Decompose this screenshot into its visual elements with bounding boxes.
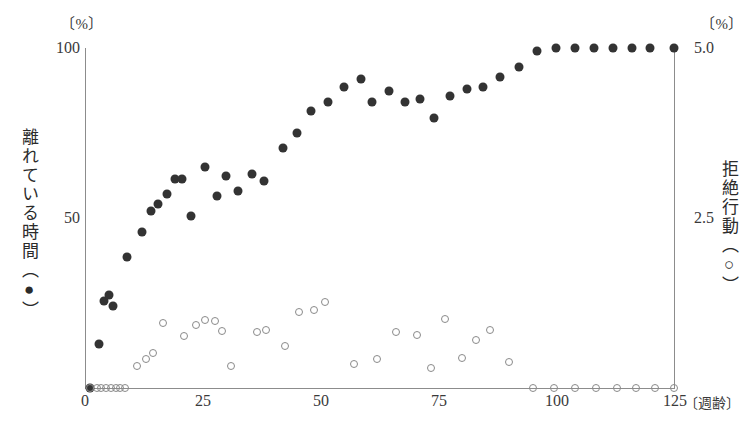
data-point (104, 290, 113, 299)
data-point (529, 384, 537, 392)
data-point (218, 327, 226, 335)
right-axis-line (674, 48, 675, 389)
data-point (123, 253, 132, 262)
data-point (441, 315, 449, 323)
data-point (260, 176, 269, 185)
data-point (234, 186, 243, 195)
data-point (278, 144, 287, 153)
data-point (571, 384, 579, 392)
data-point (154, 200, 163, 209)
x-axis-tick-50: 50 (291, 392, 351, 410)
data-point (187, 212, 196, 221)
data-point (163, 190, 172, 199)
data-point (293, 129, 302, 138)
data-point (310, 306, 318, 314)
left-axis-line (85, 48, 86, 389)
data-point (212, 191, 221, 200)
data-point (486, 326, 494, 334)
right-axis-title: 拒絶行動（○） (718, 160, 739, 295)
data-point (479, 83, 488, 92)
data-point (146, 207, 155, 216)
data-point (401, 98, 410, 107)
data-point (137, 227, 146, 236)
data-point (109, 302, 118, 311)
data-point (142, 355, 150, 363)
data-point (446, 91, 455, 100)
data-point (651, 384, 659, 392)
data-point (227, 362, 235, 370)
data-point (177, 174, 186, 183)
left-axis-unit-label: 〔%〕 (60, 12, 104, 33)
data-point (632, 384, 640, 392)
data-point (384, 86, 393, 95)
data-point (514, 62, 523, 71)
data-point (613, 384, 621, 392)
left-axis-tick-100: 100 (38, 39, 80, 57)
data-point (505, 358, 513, 366)
figure-caption-cropped (10, 420, 740, 431)
data-point (627, 44, 636, 53)
data-point (533, 47, 542, 56)
right-axis-unit-label: 〔%〕 (700, 12, 744, 33)
data-point (495, 72, 504, 81)
data-point (211, 317, 219, 325)
data-point (413, 331, 421, 339)
x-axis-tick-25: 25 (173, 392, 233, 410)
data-point (373, 355, 381, 363)
data-point (323, 98, 332, 107)
data-point (592, 384, 600, 392)
data-point (307, 106, 316, 115)
data-point (589, 44, 598, 53)
data-point (472, 336, 480, 344)
data-point (550, 384, 558, 392)
x-axis-tick-75: 75 (409, 392, 469, 410)
data-point (222, 171, 231, 180)
data-point (368, 98, 377, 107)
data-point (608, 44, 617, 53)
data-point (121, 384, 129, 392)
chart-figure: 〔%〕 〔%〕 100 50 5.0 2.5 0 25 50 75 100 12… (0, 0, 750, 431)
data-point (159, 319, 167, 327)
data-point (192, 321, 200, 329)
data-point (429, 113, 438, 122)
data-point (321, 298, 329, 306)
x-axis-line (85, 388, 675, 389)
data-point (201, 163, 210, 172)
data-point (552, 44, 561, 53)
data-point (248, 169, 257, 178)
plot-area (85, 48, 675, 388)
data-point (201, 316, 209, 324)
data-point (350, 360, 358, 368)
data-point (356, 74, 365, 83)
data-point (295, 308, 303, 316)
data-point (462, 84, 471, 93)
left-axis-tick-50: 50 (38, 209, 80, 227)
data-point (281, 342, 289, 350)
data-point (458, 354, 466, 362)
x-axis-unit-label: 〔週齢〕 (684, 392, 740, 412)
data-point (427, 364, 435, 372)
data-point (646, 44, 655, 53)
data-point (262, 326, 270, 334)
data-point (95, 339, 104, 348)
x-axis-tick-0: 0 (55, 392, 115, 410)
data-point (392, 328, 400, 336)
left-axis-title: 離れている時間（●） (18, 128, 39, 320)
data-point (149, 349, 157, 357)
data-point (180, 332, 188, 340)
data-point (133, 362, 141, 370)
data-point (571, 44, 580, 53)
x-axis-tick-100: 100 (527, 392, 587, 410)
data-point (415, 95, 424, 104)
data-point (670, 384, 678, 392)
right-axis-tick-5-0: 5.0 (694, 39, 740, 57)
data-point (340, 83, 349, 92)
data-point (253, 328, 261, 336)
data-point (670, 44, 679, 53)
